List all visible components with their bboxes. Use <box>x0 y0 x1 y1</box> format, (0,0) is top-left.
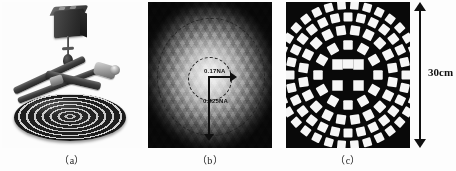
center-checker-tile <box>343 59 354 68</box>
target-tile <box>350 2 359 10</box>
center-checker-tile <box>353 59 364 70</box>
target-tile <box>336 114 347 125</box>
center-checker-tile <box>332 59 343 70</box>
target-tile <box>313 70 323 80</box>
panel-c-image <box>286 2 410 148</box>
calibration-target-graphic <box>286 2 410 148</box>
target-tile <box>286 71 295 80</box>
target-tile <box>350 114 361 125</box>
center-checker-tile <box>332 80 343 91</box>
panel-b-image: 0.17NA 0.425NA <box>148 2 272 148</box>
scale-bar-label: 30cm <box>428 66 453 78</box>
panel-a: （a） <box>2 2 142 148</box>
target-tile <box>350 140 359 148</box>
outer-na-label: 0.425NA <box>203 98 228 104</box>
target-tile <box>337 2 346 10</box>
outer-na-radius-arrow-icon <box>208 76 210 135</box>
panel-c-caption: （c） <box>286 152 410 167</box>
post-collar <box>62 47 74 51</box>
panel-a-image <box>2 2 142 148</box>
target-tile <box>387 63 398 74</box>
target-tile <box>373 70 383 80</box>
target-tile <box>343 100 353 110</box>
camera-side-face <box>80 11 87 38</box>
target-tile <box>344 129 353 138</box>
panel-c: （c） <box>286 2 410 148</box>
inner-na-label: 0.17NA <box>204 68 226 74</box>
target-tile <box>336 25 347 36</box>
target-tile <box>387 77 398 88</box>
panel-a-caption: （a） <box>2 152 142 167</box>
target-tile <box>350 25 361 36</box>
inner-na-circle <box>188 57 232 101</box>
target-tile <box>298 77 309 88</box>
panel-b-caption: （b） <box>148 152 272 167</box>
figure-root: （a） 0.17NA 0.425NA （b） （c） 30cm <box>0 0 456 171</box>
arrow-down-icon <box>414 139 426 148</box>
scale-bar-line <box>419 9 421 141</box>
ring-target-disc <box>14 94 126 141</box>
target-tile <box>298 63 309 74</box>
target-tile <box>343 40 353 50</box>
inner-na-radius-arrow-icon <box>209 76 231 78</box>
target-tile <box>344 13 353 22</box>
panel-b: 0.17NA 0.425NA （b） <box>148 2 272 148</box>
target-tile <box>402 71 411 80</box>
center-checker-tile <box>353 80 364 91</box>
scale-bar <box>414 2 426 148</box>
target-tile <box>337 140 346 148</box>
